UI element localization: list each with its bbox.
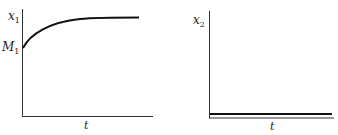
m1-annotation: M1 — [1, 40, 19, 56]
x-axis-label: t — [270, 120, 275, 133]
figure: x1 M1 t x2 t — [0, 0, 338, 135]
chart-x2: x2 t — [193, 11, 334, 133]
x-axis-label: t — [84, 119, 89, 132]
curve-x1 — [23, 18, 139, 49]
y-axis-label: x2 — [193, 13, 205, 29]
y-axis-label: x1 — [8, 9, 20, 25]
chart-x1: x1 M1 t — [1, 9, 153, 132]
